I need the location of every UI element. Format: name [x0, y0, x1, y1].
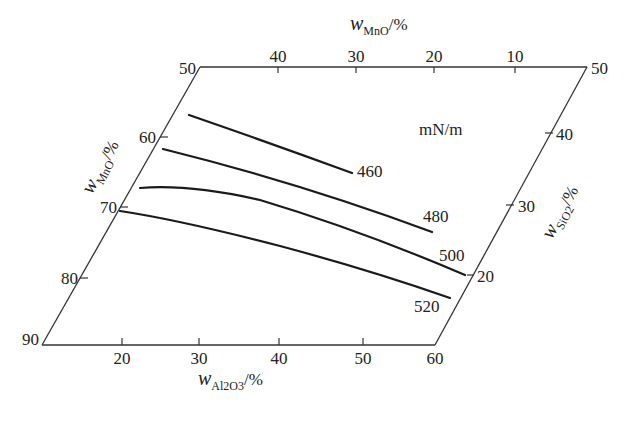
left-tick-60: 60	[139, 128, 156, 147]
diagram-canvas: 50 40 30 20 10 50 wMnO/% 60 70 80 90 wMn…	[0, 0, 625, 422]
isoline-460	[189, 115, 352, 173]
top-tick-20: 20	[426, 47, 443, 66]
bottom-tick-50: 50	[355, 349, 372, 368]
right-tick-40: 40	[556, 125, 573, 144]
bottom-tick-60: 60	[427, 349, 444, 368]
top-axis-label: wMnO/%	[350, 12, 408, 38]
diagram-frame	[42, 67, 587, 345]
svg-text:wMnO/%: wMnO/%	[76, 136, 126, 199]
svg-text:wMnO/%: wMnO/%	[350, 12, 408, 38]
unit-label: mN/m	[419, 120, 462, 139]
left-axis-label: wMnO/%	[76, 136, 126, 199]
top-tick-30: 30	[348, 47, 365, 66]
tick-marks	[80, 67, 553, 345]
isoline-label-500: 500	[439, 246, 465, 265]
top-tick-50-right: 50	[591, 59, 608, 78]
right-tick-30: 30	[518, 197, 535, 216]
bottom-tick-20: 20	[114, 349, 131, 368]
bottom-axis-label: wAl2O3/%	[198, 367, 263, 393]
isoline-500	[140, 187, 465, 275]
top-tick-10: 10	[507, 47, 524, 66]
svg-text:wAl2O3/%: wAl2O3/%	[198, 367, 263, 393]
left-tick-90: 90	[22, 330, 39, 349]
isolines	[120, 115, 465, 298]
isoline-520	[120, 211, 450, 298]
isoline-label-460: 460	[357, 162, 383, 181]
isoline-label-480: 480	[423, 207, 449, 226]
isoline-label-520: 520	[414, 297, 440, 316]
left-tick-70: 70	[100, 198, 117, 217]
top-tick-40: 40	[270, 47, 287, 66]
top-tick-50-left: 50	[179, 59, 196, 78]
right-axis-label: wSiO2/%	[536, 181, 586, 243]
bottom-tick-40: 40	[271, 349, 288, 368]
bottom-tick-30: 30	[191, 349, 208, 368]
svg-text:wSiO2/%: wSiO2/%	[536, 181, 586, 243]
left-tick-80: 80	[61, 269, 78, 288]
right-tick-20: 20	[477, 267, 494, 286]
